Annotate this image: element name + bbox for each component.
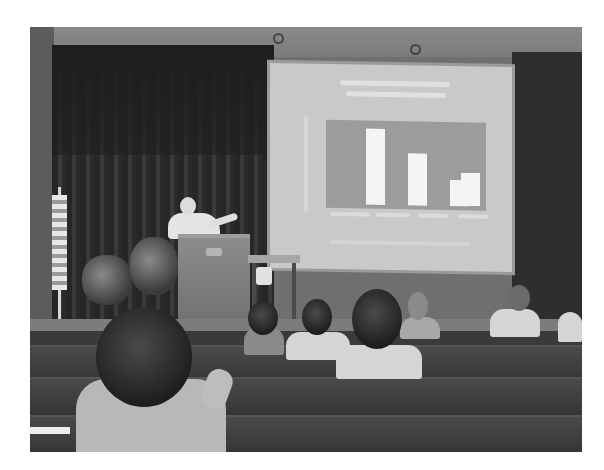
curtain-shadow	[52, 45, 274, 155]
slide-title-line	[346, 91, 446, 98]
audience-member	[558, 312, 582, 342]
podium-emblem	[206, 248, 222, 256]
projector	[256, 267, 272, 285]
audience-head	[248, 301, 278, 335]
plant	[82, 255, 132, 305]
slide-footnote	[330, 240, 470, 246]
left-wall	[30, 27, 54, 327]
audience-head	[352, 289, 402, 349]
slide-title-line	[340, 80, 450, 87]
table-leg	[292, 263, 296, 323]
x-tick-label	[418, 213, 448, 218]
projector-table	[248, 255, 300, 263]
flag	[52, 195, 67, 290]
x-tick-label	[458, 214, 488, 219]
audience-member	[490, 309, 540, 337]
plant	[130, 237, 178, 295]
audience-head	[96, 307, 192, 407]
chart-bar-4	[461, 173, 480, 206]
x-tick-label	[330, 212, 370, 217]
x-tick-label	[376, 213, 410, 218]
right-wall	[512, 52, 582, 322]
audience-head	[302, 299, 332, 335]
projection-screen	[270, 63, 512, 272]
paper	[30, 427, 70, 434]
audience-head	[508, 285, 530, 311]
audience-head	[408, 292, 428, 320]
y-axis-label	[304, 115, 308, 211]
speaker-head	[180, 197, 196, 215]
lecture-hall-photo	[30, 27, 582, 452]
ceiling-light	[410, 44, 421, 55]
audience-member	[336, 345, 422, 379]
chart-bar-1	[366, 129, 385, 205]
audience-member	[400, 317, 440, 339]
chart-bar-2	[408, 153, 427, 205]
podium	[178, 234, 250, 326]
ceiling-light	[273, 33, 284, 44]
